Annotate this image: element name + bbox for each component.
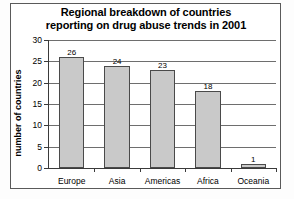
plot-area: 051015202530Europe26Asia24Americas23Afri… <box>48 40 276 169</box>
y-axis-tick <box>44 125 49 126</box>
y-axis-tick-label: 15 <box>33 99 42 109</box>
x-axis-category-label: Asia <box>109 176 126 186</box>
y-axis-tick <box>44 40 49 41</box>
chart-title: Regional breakdown of countries reportin… <box>16 6 276 32</box>
chart-figure: Regional breakdown of countries reportin… <box>0 0 294 199</box>
x-axis-tick <box>185 168 186 172</box>
bar-value-label: 23 <box>158 61 167 70</box>
chart-title-line-1: Regional breakdown of countries <box>16 6 276 19</box>
bar-value-label: 24 <box>113 57 122 66</box>
x-axis-category-label: Americas <box>145 176 180 186</box>
bar-asia[interactable]: 24 <box>104 66 129 168</box>
bar-americas[interactable]: 23 <box>150 70 175 168</box>
bar-value-label: 18 <box>203 82 212 91</box>
y-axis-tick <box>44 147 49 148</box>
y-axis-label: number of countries <box>13 58 23 168</box>
x-axis-category-label: Europe <box>58 176 85 186</box>
x-axis-category-label: Oceania <box>237 176 269 186</box>
y-axis-tick-label: 5 <box>37 142 42 152</box>
y-axis-tick-label: 20 <box>33 78 42 88</box>
y-axis-tick <box>44 168 49 169</box>
x-axis-category-label: Africa <box>197 176 219 186</box>
bar-value-label: 26 <box>67 48 76 57</box>
bar-value-label: 1 <box>251 155 255 164</box>
y-axis-tick-label: 30 <box>33 35 42 45</box>
x-axis-tick <box>140 168 141 172</box>
bar-oceania[interactable]: 1 <box>241 164 266 168</box>
x-axis-tick <box>231 168 232 172</box>
x-axis-tick <box>276 168 277 172</box>
gridline <box>49 40 276 41</box>
y-axis-tick-label: 0 <box>37 163 42 173</box>
y-axis-tick <box>44 104 49 105</box>
bar-europe[interactable]: 26 <box>59 57 84 168</box>
x-axis-tick <box>94 168 95 172</box>
y-axis-tick-label: 25 <box>33 56 42 66</box>
chart-title-line-2: reporting on drug abuse trends in 2001 <box>16 19 276 32</box>
y-axis-tick-label: 10 <box>33 120 42 130</box>
bar-africa[interactable]: 18 <box>195 91 220 168</box>
y-axis-tick <box>44 83 49 84</box>
y-axis-tick <box>44 61 49 62</box>
